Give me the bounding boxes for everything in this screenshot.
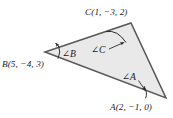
vertex-label-b: B(5, −4, 3) [2,60,44,69]
angle-label-a: ∠A [122,72,136,82]
angle-label-b: ∠B [62,49,76,59]
angle-label-c: ∠C [91,45,105,55]
geometry-figure: C(1, −3, 2) B(5, −4, 3) A(2, −1, 0) ∠B ∠… [0,0,173,118]
vertex-label-c: C(1, −3, 2) [85,8,128,17]
triangle-shape [45,23,166,98]
vertex-label-a: A(2, −1, 0) [110,103,152,112]
angle-pointer-b [56,43,59,47]
